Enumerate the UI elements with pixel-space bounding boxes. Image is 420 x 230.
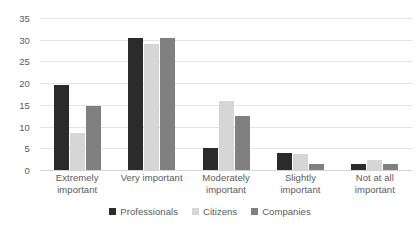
x-axis-label-line: important — [263, 184, 337, 196]
x-axis-category-label: Very important — [114, 172, 188, 195]
bar — [219, 101, 234, 170]
bar — [309, 164, 324, 170]
bar — [160, 38, 175, 170]
bar — [54, 85, 69, 170]
x-axis-category-label: Slightlyimportant — [263, 172, 337, 195]
bar — [367, 160, 382, 170]
x-axis-label-line: Not at all — [338, 172, 412, 184]
bar-group — [263, 18, 337, 170]
bar — [128, 38, 143, 170]
y-axis: 05101520253035 — [0, 18, 36, 170]
legend-item[interactable]: Companies — [251, 206, 311, 217]
bar-group — [338, 18, 412, 170]
x-axis-label-line: important — [338, 184, 412, 196]
y-axis-tick-label: 35 — [19, 13, 30, 24]
bar — [235, 116, 250, 170]
bar — [70, 133, 85, 170]
bar — [86, 106, 101, 170]
legend-label: Professionals — [120, 206, 178, 217]
legend-swatch-icon — [109, 208, 116, 215]
y-axis-tick-label: 5 — [25, 143, 30, 154]
y-axis-tick-label: 15 — [19, 99, 30, 110]
bar-group — [114, 18, 188, 170]
bar-chart: 05101520253035 ExtremelyimportantVery im… — [0, 0, 420, 230]
x-axis-label-line: Very important — [114, 172, 188, 184]
plot-area — [40, 18, 412, 170]
x-axis-category-label: Moderatelyimportant — [189, 172, 263, 195]
bar-groups — [40, 18, 412, 170]
y-axis-tick-label: 30 — [19, 34, 30, 45]
legend-swatch-icon — [251, 208, 258, 215]
x-axis-category-label: Not at allimportant — [338, 172, 412, 195]
legend-item[interactable]: Citizens — [192, 206, 237, 217]
chart-legend: ProfessionalsCitizensCompanies — [0, 206, 420, 217]
bar — [203, 148, 218, 170]
x-axis-category-label: Extremelyimportant — [40, 172, 114, 195]
y-axis-tick-label: 25 — [19, 56, 30, 67]
legend-swatch-icon — [192, 208, 199, 215]
axis-line-zero — [40, 170, 412, 171]
x-axis-label-line: important — [189, 184, 263, 196]
bar — [383, 164, 398, 171]
x-axis-label-line: important — [40, 184, 114, 196]
y-axis-tick-label: 10 — [19, 121, 30, 132]
legend-label: Companies — [262, 206, 311, 217]
bar-group — [40, 18, 114, 170]
bar — [293, 154, 308, 171]
legend-label: Citizens — [203, 206, 237, 217]
x-axis-label-line: Slightly — [263, 172, 337, 184]
bar-group — [189, 18, 263, 170]
y-axis-tick-label: 0 — [25, 165, 30, 176]
x-axis-label-line: Moderately — [189, 172, 263, 184]
bar — [277, 153, 292, 170]
bar — [144, 44, 159, 170]
x-axis-label-line: Extremely — [40, 172, 114, 184]
x-axis: ExtremelyimportantVery importantModerate… — [40, 172, 412, 195]
legend-item[interactable]: Professionals — [109, 206, 178, 217]
bar — [351, 164, 366, 171]
y-axis-tick-label: 20 — [19, 78, 30, 89]
